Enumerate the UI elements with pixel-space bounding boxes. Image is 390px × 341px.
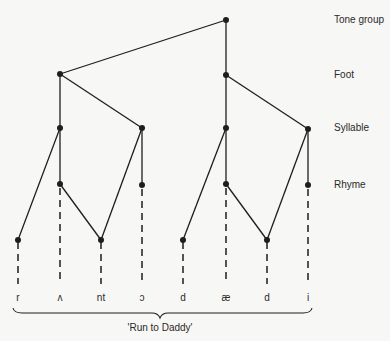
edge-syl4-onset-d [267, 129, 308, 240]
tree-graph [0, 0, 390, 341]
node-syllable-4 [305, 126, 311, 132]
node-tone-group [223, 17, 229, 23]
edge-rhyme3-coda-d [226, 184, 267, 240]
node-onset-r [15, 237, 21, 243]
segment-ae: æ [214, 292, 238, 304]
node-foot-2 [223, 72, 229, 78]
segment-nt: nt [89, 292, 113, 304]
segment-open-o: ɔ [130, 292, 154, 304]
nodes [15, 17, 311, 243]
node-foot-1 [57, 71, 63, 77]
edge-syl3-onset-d [183, 128, 226, 240]
node-nt [98, 237, 104, 243]
edge-syl1-onset-r [18, 128, 60, 240]
node-d2 [264, 237, 270, 243]
node-rhyme-2 [139, 182, 145, 188]
segment-i: i [296, 292, 320, 304]
segment-wedge: ʌ [48, 292, 72, 304]
node-rhyme-1 [57, 181, 63, 187]
segment-r: r [6, 292, 30, 304]
segment-d2: d [255, 292, 279, 304]
level-label-tone-group: Tone group [334, 14, 384, 26]
node-onset-d1 [180, 237, 186, 243]
level-label-syllable: Syllable [334, 122, 369, 134]
level-label-rhyme: Rhyme [334, 179, 366, 191]
caption: 'Run to Daddy' [110, 322, 210, 334]
segment-d1: d [171, 292, 195, 304]
edge-rhyme1-coda-nt [60, 184, 101, 240]
node-syllable-3 [223, 125, 229, 131]
underbrace [13, 308, 312, 318]
edge-tonegroup-foot1 [60, 20, 226, 74]
node-syllable-2 [139, 125, 145, 131]
edge-foot2-syl4 [226, 75, 308, 129]
edge-syl2-onset-nt [101, 128, 142, 240]
node-rhyme-3 [223, 181, 229, 187]
edge-foot1-syl2 [60, 74, 142, 128]
level-label-foot: Foot [334, 69, 354, 81]
node-rhyme-4 [305, 182, 311, 188]
prosodic-tree-diagram: Tone group Foot Syllable Rhyme r ʌ nt ɔ … [0, 0, 390, 341]
node-syllable-1 [57, 125, 63, 131]
